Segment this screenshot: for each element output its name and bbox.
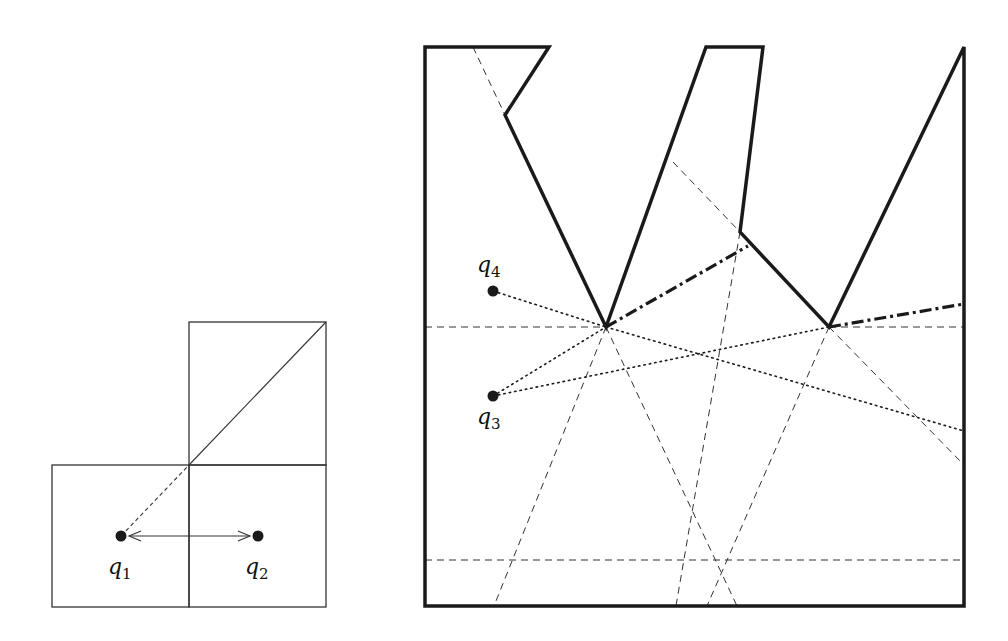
diagram-canvas: q1q2 q4q3	[0, 0, 1008, 641]
point-q1	[116, 531, 127, 542]
diagonal-solid-line	[189, 322, 326, 465]
dashed-line-6	[606, 327, 737, 606]
dashdot-line-1	[829, 304, 964, 327]
dotted-visibility-line-2	[493, 327, 606, 396]
point-q4	[488, 286, 499, 297]
dotted-visibility-line-0	[493, 291, 606, 327]
label-q4: q4	[477, 252, 501, 281]
point-q3	[488, 391, 499, 402]
dashdot-line-0	[606, 246, 748, 327]
point-q2	[253, 531, 264, 542]
dashed-line-7	[676, 232, 740, 606]
right-figure-polygon: q4q3	[425, 47, 964, 606]
dotted-visibility-line-1	[606, 327, 964, 431]
label-q3: q3	[477, 404, 501, 433]
diagonal-dashed-line	[121, 465, 189, 536]
label-q1: q1	[108, 554, 132, 583]
dotted-visibility-line-3	[493, 327, 829, 396]
left-figure-squares: q1q2	[52, 322, 326, 607]
dashed-line-5	[494, 327, 606, 606]
dashed-line-8	[707, 327, 829, 606]
dashed-line-9	[829, 327, 964, 465]
label-q2: q2	[245, 554, 269, 583]
dashed-line-1	[673, 162, 740, 232]
dashed-line-0	[473, 47, 505, 115]
